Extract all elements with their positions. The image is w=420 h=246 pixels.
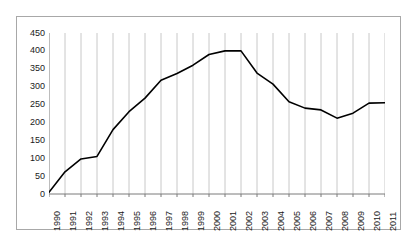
x-tick-label: 2007	[325, 211, 334, 231]
x-tick-label: 2010	[373, 211, 382, 231]
x-tick-label: 2006	[309, 211, 318, 231]
x-tick-label: 2002	[245, 211, 254, 231]
x-tick-label: 2011	[389, 212, 398, 231]
x-axis-tick-labels: 1990199119921993199419951996199719981999…	[0, 0, 420, 246]
chart-container: 450 400 350 300 250 200 150 100 50 0 199…	[0, 0, 420, 246]
x-tick-label: 2009	[357, 211, 366, 231]
x-tick-label: 1998	[181, 211, 190, 231]
x-tick-label: 1991	[69, 211, 78, 231]
x-tick-label: 1992	[85, 211, 94, 231]
x-tick-label: 1990	[53, 211, 62, 231]
x-tick-label: 1993	[101, 211, 110, 231]
x-tick-label: 2003	[261, 211, 270, 231]
x-tick-label: 1999	[197, 211, 206, 231]
x-tick-label: 2005	[293, 211, 302, 231]
x-tick-label: 2004	[277, 211, 286, 231]
x-tick-label: 1997	[165, 211, 174, 231]
x-tick-label: 2001	[229, 211, 238, 231]
x-tick-label: 1996	[149, 211, 158, 231]
x-tick-label: 2008	[341, 211, 350, 231]
x-tick-label: 1995	[133, 211, 142, 231]
x-tick-label: 2000	[213, 211, 222, 231]
x-tick-label: 1994	[117, 211, 126, 231]
